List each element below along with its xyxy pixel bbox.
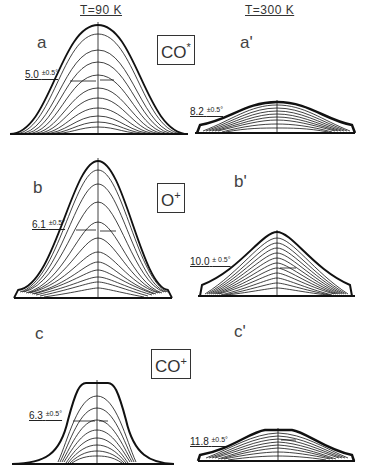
curve-family-b-prime xyxy=(198,230,355,296)
curve-family-a-prime xyxy=(195,100,355,133)
curve-family-c-prime xyxy=(198,428,355,461)
curve-family-b xyxy=(14,158,172,298)
curve-family-c xyxy=(12,380,174,464)
curve-family-a xyxy=(10,22,188,134)
angular-distribution-plots xyxy=(0,0,365,469)
